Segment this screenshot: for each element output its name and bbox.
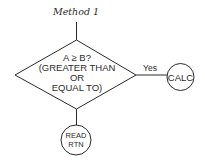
calc-label: CALC (168, 72, 193, 83)
yes-label: Yes (143, 63, 157, 73)
decision-line-4: EQUAL TO) (52, 82, 103, 93)
flowchart-diagram: Method 1 A ≥ B? (GREATER THAN OR EQUAL T… (0, 0, 205, 165)
decision-text: A ≥ B? (GREATER THAN OR EQUAL TO) (39, 52, 116, 93)
read-rtn-line-2: RTN (68, 140, 83, 149)
read-rtn-line-1: READ (66, 131, 87, 140)
diagram-title: Method 1 (52, 6, 99, 17)
